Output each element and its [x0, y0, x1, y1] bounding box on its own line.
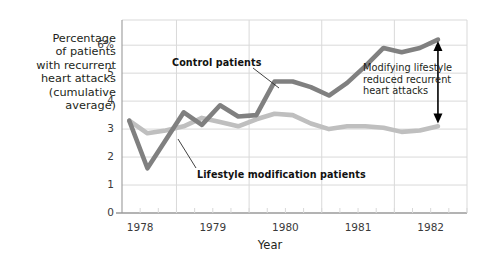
lifestyle-leader-line — [178, 139, 196, 168]
y-tick-label-2: 2 — [88, 150, 114, 162]
y-tick-label-4: 4 — [88, 94, 114, 106]
chart-figure: Percentageof patientswith recurrentheart… — [0, 0, 486, 264]
x-tick-label-2: 1980 — [262, 221, 308, 233]
x-tick-label-4: 1982 — [408, 221, 454, 233]
control-series-label: Control patients — [172, 57, 261, 68]
y-tick-label-0: 0 — [88, 206, 114, 218]
control-leader-line — [253, 68, 279, 88]
y-tick-label-5: 5 — [88, 66, 114, 78]
y-tick-label-6: 6% — [88, 38, 114, 50]
x-tick-label-1: 1979 — [190, 221, 236, 233]
gap-annotation-line-0: Modifying lifestyle — [363, 62, 452, 74]
x-tick-label-3: 1981 — [335, 221, 381, 233]
gap-annotation-text: Modifying lifestylereduced recurrenthear… — [363, 62, 452, 97]
x-minor-ticks — [140, 208, 467, 213]
lifestyle-series-label: Lifestyle modification patients — [197, 169, 366, 180]
gap-annotation-line-2: heart attacks — [363, 85, 452, 97]
y-tick-label-3: 3 — [88, 122, 114, 134]
y-tick-label-1: 1 — [88, 178, 114, 190]
gap-annotation-line-1: reduced recurrent — [363, 74, 452, 86]
gap-arrow-head-bottom — [433, 113, 442, 123]
x-axis-title: Year — [240, 238, 300, 252]
x-tick-label-0: 1978 — [117, 221, 163, 233]
